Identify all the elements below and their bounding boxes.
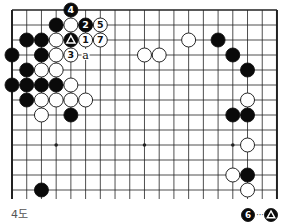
stone-black — [34, 48, 48, 62]
stone-white — [241, 93, 255, 107]
white-stone — [152, 48, 166, 62]
black-stone — [5, 78, 19, 92]
black-stone — [20, 63, 34, 77]
move-number: 1 — [82, 34, 89, 45]
stone-black — [211, 33, 225, 47]
black-stone — [226, 108, 240, 122]
stone-black — [34, 183, 48, 197]
black-stone — [34, 48, 48, 62]
stone-white — [79, 93, 93, 107]
stone-white: 7 — [93, 33, 107, 47]
note-from-stone: 6 — [242, 209, 255, 222]
move-note-content: 6··· — [242, 209, 278, 222]
white-stone — [241, 183, 255, 197]
black-stone — [64, 108, 78, 122]
stone-white — [137, 48, 151, 62]
black-stone — [20, 78, 34, 92]
stone-white — [34, 93, 48, 107]
stone-white — [241, 183, 255, 197]
stone-black — [241, 63, 255, 77]
stone-white — [64, 93, 78, 107]
white-stone — [34, 108, 48, 122]
stone-white: 1 — [79, 33, 93, 47]
black-stone — [241, 63, 255, 77]
stone-white: 5 — [93, 18, 107, 32]
white-stone — [49, 63, 63, 77]
stone-white — [152, 48, 166, 62]
move-note: 6··· — [240, 207, 280, 223]
stone-white: 3 — [64, 48, 78, 62]
black-stone — [49, 18, 63, 32]
black-stone — [5, 48, 19, 62]
stone-black — [49, 18, 63, 32]
stone-black — [49, 78, 63, 92]
move-number: 5 — [97, 19, 104, 30]
white-stone — [64, 18, 78, 32]
white-stone — [226, 168, 240, 182]
white-stone — [34, 63, 48, 77]
stone-black — [5, 48, 19, 62]
point-marker-a: a — [82, 49, 89, 62]
stone-black — [5, 78, 19, 92]
note-to-stone — [265, 209, 278, 222]
stone-white — [34, 108, 48, 122]
star-point — [231, 143, 235, 147]
stone-black — [20, 93, 34, 107]
stone-black — [34, 33, 48, 47]
move-number: 2 — [82, 19, 89, 30]
stone-black — [241, 168, 255, 182]
black-stone — [49, 78, 63, 92]
star-point — [143, 143, 147, 147]
black-stone — [20, 33, 34, 47]
stone-white — [34, 63, 48, 77]
white-stone — [182, 33, 196, 47]
white-stone — [34, 93, 48, 107]
black-stone — [34, 183, 48, 197]
move-number: 4 — [68, 4, 75, 15]
stone-white — [226, 168, 240, 182]
stone-white — [241, 138, 255, 152]
board-markers: a — [82, 49, 90, 62]
stone-black — [64, 33, 78, 47]
stone-white — [64, 18, 78, 32]
white-stone — [137, 48, 151, 62]
stone-black — [241, 108, 255, 122]
stone-white — [49, 63, 63, 77]
stone-white — [49, 93, 63, 107]
white-stone — [64, 93, 78, 107]
white-stone — [241, 93, 255, 107]
stone-black: 4 — [64, 3, 78, 17]
stone-white — [49, 48, 63, 62]
black-stone — [34, 78, 48, 92]
diagram-caption: 4도 — [11, 205, 28, 221]
black-stone — [20, 93, 34, 107]
stone-black — [226, 108, 240, 122]
stone-white — [64, 78, 78, 92]
go-board: a 425173 — [0, 0, 281, 205]
stone-black: 2 — [79, 18, 93, 32]
white-stone — [79, 93, 93, 107]
black-stone — [211, 33, 225, 47]
white-stone — [241, 138, 255, 152]
note-separator: ··· — [256, 211, 264, 220]
move-number: 6 — [245, 210, 251, 220]
stone-black — [20, 63, 34, 77]
stone-black — [64, 108, 78, 122]
stone-white — [182, 33, 196, 47]
stone-black — [226, 48, 240, 62]
star-point — [54, 143, 58, 147]
black-stone — [241, 108, 255, 122]
stone-black — [20, 33, 34, 47]
black-stone — [241, 168, 255, 182]
white-stone — [49, 93, 63, 107]
black-stone — [34, 33, 48, 47]
stone-white — [49, 33, 63, 47]
black-stone — [226, 48, 240, 62]
white-stone — [49, 33, 63, 47]
white-stone — [64, 78, 78, 92]
stone-black — [20, 78, 34, 92]
move-number: 7 — [97, 34, 104, 45]
stone-black — [34, 78, 48, 92]
white-stone — [49, 48, 63, 62]
move-number: 3 — [68, 49, 75, 60]
